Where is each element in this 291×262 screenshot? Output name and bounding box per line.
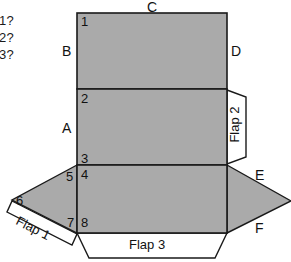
vertex-label-8: 8 — [81, 216, 88, 229]
edge-label-f: F — [255, 221, 264, 235]
vertex-label-4: 4 — [81, 168, 88, 181]
flap-3-label: Flap 3 — [129, 238, 165, 251]
edge-label-a: A — [62, 121, 71, 135]
vertex-label-6: 6 — [16, 194, 23, 207]
vertex-label-7: 7 — [67, 216, 74, 229]
panel-top — [77, 13, 227, 89]
question-line-3: 3? — [0, 47, 14, 62]
flap-2-label: Flap 2 — [228, 106, 241, 142]
vertex-label-1: 1 — [81, 15, 88, 28]
vertex-label-2: 2 — [81, 92, 88, 105]
question-line-2: 2? — [0, 30, 14, 45]
panel-middle — [77, 89, 227, 165]
edge-label-c: C — [147, 0, 157, 14]
box-net-diagram — [0, 0, 291, 262]
edge-label-b: B — [62, 44, 71, 58]
edge-label-e: E — [255, 168, 264, 182]
edge-label-d: D — [231, 44, 241, 58]
question-line-1: 1? — [0, 13, 14, 28]
vertex-label-3: 3 — [81, 152, 88, 165]
vertex-label-5: 5 — [66, 170, 73, 183]
panel-bottom — [77, 165, 227, 233]
figure-canvas: 1? 2? 3? C B D A E F 1 2 3 4 5 6 7 8 Fla… — [0, 0, 291, 262]
